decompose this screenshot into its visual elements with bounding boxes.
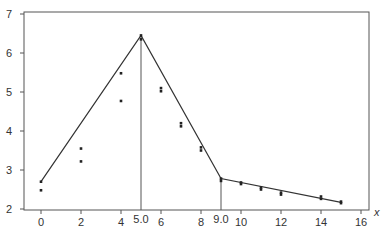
y-tick-label: 2 — [6, 203, 12, 215]
piecewise-regression-chart: 234567 0246810121416 5.09.0 x — [0, 0, 386, 237]
data-point — [320, 198, 323, 201]
data-point — [220, 177, 223, 180]
data-point — [200, 146, 203, 149]
plot-frame — [24, 12, 369, 210]
data-point — [180, 122, 183, 125]
data-point — [120, 100, 123, 103]
data-point — [160, 90, 163, 93]
y-tick-label: 4 — [6, 125, 12, 137]
data-point — [220, 180, 223, 183]
data-point — [40, 189, 43, 192]
x-tick-label: 8 — [198, 216, 204, 228]
data-point — [280, 193, 283, 196]
x-tick-label: 6 — [158, 216, 164, 228]
data-point — [140, 34, 143, 37]
data-point — [80, 147, 83, 150]
y-tick-label: 3 — [6, 164, 12, 176]
x-tick-label: 4 — [118, 216, 124, 228]
data-point — [40, 180, 43, 183]
data-point — [140, 38, 143, 41]
knot-lines: 5.09.0 — [133, 35, 228, 225]
fit-polyline — [41, 35, 341, 202]
fit-line — [41, 35, 341, 202]
data-point — [240, 183, 243, 186]
knot-label: 5.0 — [133, 213, 148, 225]
data-point — [200, 149, 203, 152]
y-tick-label: 7 — [6, 8, 12, 20]
knot-label: 9.0 — [213, 213, 228, 225]
data-point — [320, 195, 323, 198]
data-point — [260, 188, 263, 191]
x-tick-label: 2 — [78, 216, 84, 228]
y-tick-label: 5 — [6, 86, 12, 98]
data-point — [120, 72, 123, 75]
data-point — [160, 87, 163, 90]
x-tick-label: 12 — [275, 216, 287, 228]
x-axis-label: x — [373, 206, 380, 218]
data-point — [80, 160, 83, 163]
data-point — [340, 202, 343, 205]
x-tick-label: 0 — [38, 216, 44, 228]
x-axis: 0246810121416 — [38, 210, 367, 228]
x-tick-label: 16 — [355, 216, 367, 228]
data-point — [180, 125, 183, 128]
x-tick-label: 14 — [315, 216, 327, 228]
data-points — [40, 34, 343, 204]
y-axis: 234567 — [6, 8, 24, 215]
y-tick-label: 6 — [6, 47, 12, 59]
x-tick-label: 10 — [235, 216, 247, 228]
